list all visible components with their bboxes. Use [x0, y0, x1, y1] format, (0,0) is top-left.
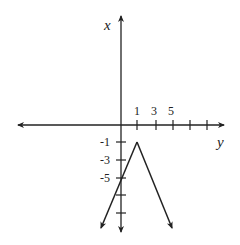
tick-label-1: 1 [134, 104, 140, 118]
horizontal-axis-label: y [215, 134, 224, 150]
tick-label-3: 3 [151, 104, 157, 118]
tick-label-neg5: -5 [100, 171, 110, 185]
vertical-axis-label: x [103, 17, 111, 33]
tick-label-5: 5 [168, 104, 174, 118]
tick-label-neg3: -3 [100, 153, 110, 167]
v-shaped-graph [101, 142, 172, 228]
tick-label-neg1: -1 [100, 135, 110, 149]
coordinate-graph: x y 1 3 5 -1 -3 -5 [0, 0, 240, 245]
